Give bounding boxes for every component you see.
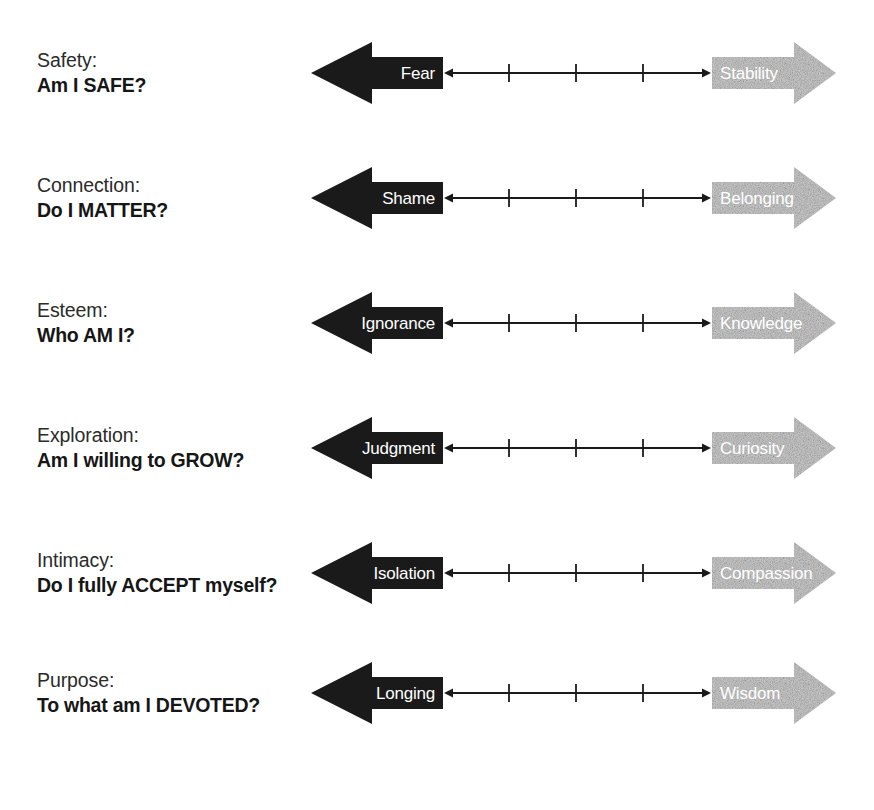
positive-pole-label: Curiosity (720, 439, 785, 458)
needs-continuum-diagram: Safety:Am I SAFE?FearStabilityConnection… (0, 0, 874, 810)
positive-pole-label: Compassion (720, 564, 813, 583)
row-arrow-graphics: JudgmentCuriosity (0, 393, 874, 503)
continuum-row: Connection:Do I MATTER?ShameBelonging (0, 143, 874, 253)
connector-arrowhead-left (444, 444, 453, 453)
continuum-row: Esteem:Who AM I?IgnoranceKnowledge (0, 268, 874, 378)
connector-arrowhead-right (702, 689, 711, 698)
negative-pole-label: Fear (401, 64, 436, 83)
row-arrow-graphics: FearStability (0, 18, 874, 128)
continuum-connector (444, 564, 711, 582)
positive-pole-label: Belonging (720, 189, 794, 208)
connector-arrowhead-left (444, 569, 453, 578)
negative-pole-label: Isolation (373, 564, 435, 583)
positive-pole-label: Stability (720, 64, 778, 83)
connector-arrowhead-left (444, 319, 453, 328)
row-arrow-graphics: LongingWisdom (0, 638, 874, 748)
continuum-row: Intimacy:Do I fully ACCEPT myself?Isolat… (0, 518, 874, 628)
connector-arrowhead-right (702, 319, 711, 328)
continuum-row: Purpose:To what am I DEVOTED?LongingWisd… (0, 638, 874, 748)
connector-arrowhead-left (444, 194, 453, 203)
negative-pole-label: Longing (376, 684, 435, 703)
connector-arrowhead-right (702, 194, 711, 203)
continuum-connector (444, 314, 711, 332)
positive-pole-label: Wisdom (720, 684, 780, 703)
connector-arrowhead-right (702, 69, 711, 78)
continuum-connector (444, 684, 711, 702)
continuum-connector (444, 64, 711, 82)
negative-pole-label: Ignorance (361, 314, 435, 333)
connector-arrowhead-right (702, 569, 711, 578)
continuum-connector (444, 439, 711, 457)
row-arrow-graphics: IsolationCompassion (0, 518, 874, 628)
row-arrow-graphics: ShameBelonging (0, 143, 874, 253)
continuum-row: Exploration:Am I willing to GROW?Judgmen… (0, 393, 874, 503)
continuum-row: Safety:Am I SAFE?FearStability (0, 18, 874, 128)
negative-pole-label: Shame (382, 189, 435, 208)
positive-pole-label: Knowledge (720, 314, 802, 333)
connector-arrowhead-right (702, 444, 711, 453)
continuum-connector (444, 189, 711, 207)
connector-arrowhead-left (444, 69, 453, 78)
negative-pole-label: Judgment (362, 439, 436, 458)
connector-arrowhead-left (444, 689, 453, 698)
row-arrow-graphics: IgnoranceKnowledge (0, 268, 874, 378)
